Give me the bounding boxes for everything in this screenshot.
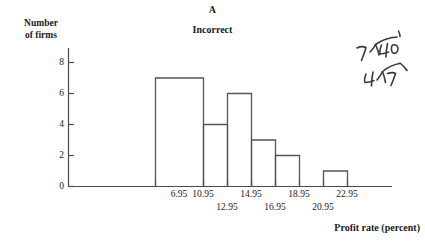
x-tick-label-20-95: 20.95	[301, 202, 345, 212]
histogram-figure: A Incorrect Numberof firms	[0, 0, 425, 243]
x-tick-label-18-95: 18.95	[277, 189, 321, 199]
bar-7	[156, 78, 204, 187]
y-tick-label-0: 0	[48, 181, 64, 191]
y-tick-label-6: 6	[48, 88, 64, 98]
histogram-bars	[156, 78, 348, 187]
x-tick-label-12-95: 12.95	[205, 202, 249, 212]
x-tick-label-14-95: 14.95	[229, 189, 273, 199]
bar-3	[252, 140, 276, 187]
y-tick-label-4: 4	[48, 119, 64, 129]
bar-4	[204, 125, 228, 187]
bar-2	[276, 156, 300, 187]
y-tick-marks	[69, 63, 75, 187]
y-tick-label-2: 2	[48, 150, 64, 160]
x-tick-label-22-95: 22.95	[325, 189, 369, 199]
y-tick-label-8: 8	[48, 57, 64, 67]
bar-6	[228, 94, 252, 187]
bar-1	[324, 171, 348, 187]
x-tick-label-16-95: 16.95	[253, 202, 297, 212]
x-axis-title: Profit rate (percent)	[250, 222, 420, 233]
x-tick-label-10-95: 10.95	[181, 189, 225, 199]
